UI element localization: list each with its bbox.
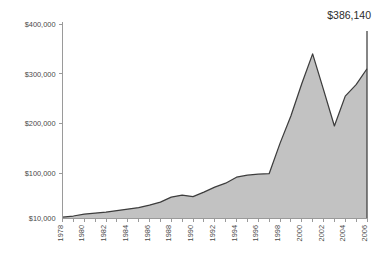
- y-tick-label: $400,000: [25, 20, 56, 29]
- x-tick-label: 1996: [251, 225, 260, 241]
- chart-canvas: $400,000$300,000$200,000$100,000$10,0001…: [0, 0, 384, 262]
- y-tick-label: $10,000: [29, 214, 56, 223]
- x-tick-label: 2004: [338, 225, 347, 241]
- x-tick-label: 1992: [208, 225, 217, 241]
- x-tick-label: 1982: [99, 225, 108, 241]
- data-value-label: $386,140: [327, 9, 371, 21]
- y-tick-label: $300,000: [25, 70, 56, 79]
- x-tick-label: 1978: [56, 225, 65, 241]
- x-tick-label: 1988: [164, 225, 173, 241]
- x-tick-label: 1986: [143, 225, 152, 241]
- x-tick-label: 1984: [121, 225, 130, 241]
- x-tick-label: 1980: [77, 225, 86, 241]
- x-tick-label: 1998: [273, 225, 282, 241]
- area-series-fill: [63, 54, 368, 218]
- area-chart: $400,000$300,000$200,000$100,000$10,0001…: [0, 0, 384, 262]
- x-tick-label: 2000: [295, 225, 304, 241]
- y-tick-label: $100,000: [25, 169, 56, 178]
- y-tick-label: $200,000: [25, 119, 56, 128]
- x-tick-label: 1994: [230, 225, 239, 241]
- x-tick-label: 1990: [186, 225, 195, 241]
- x-tick-label: 2002: [317, 225, 326, 241]
- x-tick-label: 2006: [360, 225, 369, 241]
